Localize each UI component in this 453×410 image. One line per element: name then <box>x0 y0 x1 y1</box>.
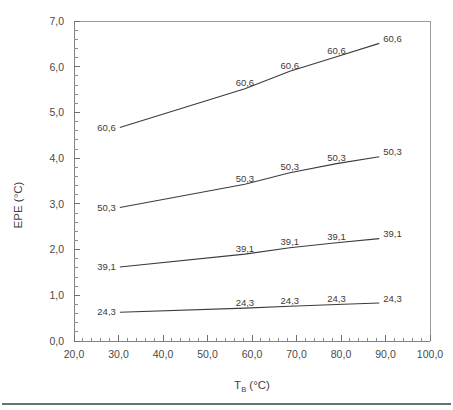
point-label: 50,3 <box>281 161 300 172</box>
point-label: 50,3 <box>236 173 255 184</box>
point-label: 24,3 <box>281 295 300 306</box>
y-tick-label: 1,0 <box>49 289 64 301</box>
x-tick-label: 90,0 <box>375 348 396 360</box>
point-label: 39,1 <box>383 228 402 239</box>
x-tick-label: 80,0 <box>331 348 352 360</box>
x-tick-label: 60,0 <box>242 348 263 360</box>
point-label: 39,1 <box>327 231 346 242</box>
point-label: 50,3 <box>97 202 116 213</box>
point-label: 24,3 <box>327 293 346 304</box>
x-tick-label: 70,0 <box>286 348 307 360</box>
y-tick-label: 0,0 <box>49 335 64 347</box>
x-tick-label: 40,0 <box>153 348 174 360</box>
point-label: 39,1 <box>97 261 116 272</box>
point-label: 24,3 <box>383 293 402 304</box>
y-tick-label: 4,0 <box>49 152 64 164</box>
y-tick-label: 6,0 <box>49 61 64 73</box>
point-label: 50,3 <box>383 146 402 157</box>
point-label: 60,6 <box>236 77 255 88</box>
point-label: 60,6 <box>97 122 116 133</box>
point-label: 60,6 <box>327 45 346 56</box>
chart-figure: 0,01,02,03,04,05,06,07,0 20,030,040,050,… <box>0 0 453 410</box>
y-tick-label: 3,0 <box>49 198 64 210</box>
x-tick-label: 30,0 <box>108 348 129 360</box>
y-tick-label: 2,0 <box>49 243 64 255</box>
point-label: 24,3 <box>97 306 116 317</box>
point-label: 60,6 <box>281 60 300 71</box>
point-label: 24,3 <box>236 297 255 308</box>
point-label: 50,3 <box>327 152 346 163</box>
point-label: 39,1 <box>236 243 255 254</box>
x-tick-label: 20,0 <box>64 348 85 360</box>
y-axis-title: EPE (°C) <box>12 181 24 228</box>
x-tick-label: 50,0 <box>197 348 218 360</box>
point-label: 39,1 <box>281 236 300 247</box>
x-axis-tick-labels: 20,030,040,050,060,070,080,090,0100,0 <box>64 348 444 360</box>
line-chart: 0,01,02,03,04,05,06,07,0 20,030,040,050,… <box>0 0 453 410</box>
y-tick-label: 7,0 <box>49 15 64 27</box>
point-label: 60,6 <box>383 33 402 44</box>
y-tick-label: 5,0 <box>49 106 64 118</box>
x-tick-label: 100,0 <box>417 348 443 360</box>
